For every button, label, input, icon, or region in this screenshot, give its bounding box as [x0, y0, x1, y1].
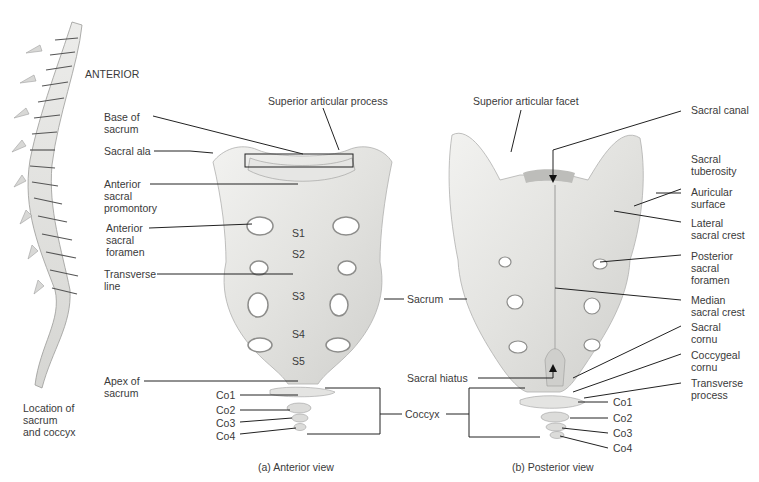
label-lateral-sacral-crest-2: sacral crest [691, 229, 745, 242]
label-anterior-sacral-foramen-1: Anterior [106, 222, 143, 235]
label-lateral-sacral-crest-1: Lateral [691, 217, 723, 230]
label-a-co1: Co1 [216, 389, 235, 402]
label-auricular-surface-1: Auricular [691, 186, 732, 199]
label-a-co2: Co2 [216, 404, 235, 417]
label-b-co3: Co3 [613, 427, 632, 440]
segment-s4: S4 [292, 328, 305, 341]
label-anterior-sacral-foramen-3: foramen [106, 246, 145, 259]
label-base-of-sacrum-2: sacrum [104, 123, 138, 136]
segment-s3: S3 [292, 290, 305, 303]
label-sacral-hiatus: Sacral hiatus [407, 372, 468, 385]
label-superior-articular-process: Superior articular process [268, 95, 388, 108]
label-median-sacral-crest-1: Median [691, 294, 725, 307]
label-transverse-line-2: line [104, 280, 120, 293]
label-transverse-process-2: process [691, 389, 728, 402]
vertebral-column-illustration [12, 22, 82, 388]
label-sacral-cornu-1: Sacral [691, 321, 721, 334]
label-anterior-sacral-promontory-2: sacral [104, 190, 132, 203]
label-sacral-cornu-2: cornu [691, 333, 717, 346]
label-anterior-sacral-promontory-1: Anterior [104, 178, 141, 191]
label-posterior-sacral-foramen-2: sacral [691, 262, 719, 275]
label-posterior-sacral-foramen-3: foramen [691, 274, 730, 287]
label-apex-of-sacrum-1: Apex of [104, 375, 140, 388]
segment-s5: S5 [292, 355, 305, 368]
label-posterior-sacral-foramen-1: Posterior [691, 250, 733, 263]
label-sacral-tuberosity-2: tuberosity [691, 165, 737, 178]
label-b-co4: Co4 [613, 442, 632, 455]
label-base-of-sacrum-1: Base of [104, 111, 140, 124]
label-apex-of-sacrum-2: sacrum [104, 387, 138, 400]
label-transverse-line-1: Transverse [104, 268, 156, 281]
label-transverse-process-1: Transverse [691, 377, 743, 390]
segment-s2: S2 [292, 248, 305, 261]
caption-anterior-view: (a) Anterior view [258, 461, 334, 473]
location-caption-line2: sacrum [23, 414, 57, 427]
label-anterior-sacral-promontory-3: promontory [104, 202, 157, 215]
orientation-label: ANTERIOR [85, 68, 139, 81]
label-sacral-canal: Sacral canal [691, 104, 749, 117]
label-sacral-tuberosity-1: Sacral [691, 153, 721, 166]
label-median-sacral-crest-2: sacral crest [691, 306, 745, 319]
caption-posterior-view: (b) Posterior view [512, 461, 594, 473]
segment-s1: S1 [292, 227, 305, 240]
label-sacral-ala: Sacral ala [104, 145, 151, 158]
label-anterior-sacral-foramen-2: sacral [106, 234, 134, 247]
label-coccyx: Coccyx [405, 408, 439, 421]
location-caption-line3: and coccyx [23, 426, 76, 439]
label-coccygeal-cornu-2: cornu [691, 361, 717, 374]
sacrum-posterior-illustration [449, 133, 643, 438]
label-a-co3: Co3 [216, 417, 235, 430]
location-caption-line1: Location of [23, 402, 74, 415]
label-superior-articular-facet: Superior articular facet [473, 95, 579, 108]
label-auricular-surface-2: surface [691, 198, 725, 211]
label-b-co1: Co1 [613, 396, 632, 409]
label-b-co2: Co2 [613, 412, 632, 425]
label-sacrum: Sacrum [407, 293, 443, 306]
label-a-co4: Co4 [216, 430, 235, 443]
label-coccygeal-cornu-1: Coccygeal [691, 349, 740, 362]
